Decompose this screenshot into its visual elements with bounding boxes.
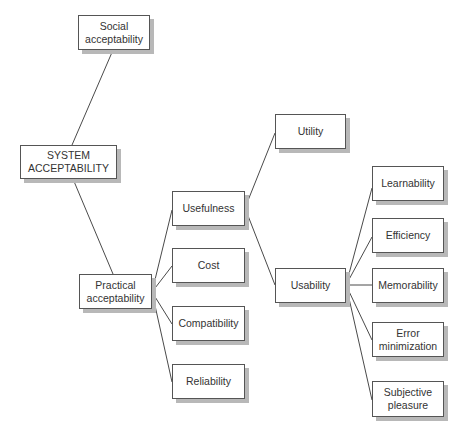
node-label: Compatibility bbox=[178, 317, 238, 330]
node-label-line: Error bbox=[379, 327, 437, 340]
node-label: Learnability bbox=[381, 177, 435, 190]
node-label-line: Subjective bbox=[384, 386, 432, 399]
node-label: Usefulness bbox=[183, 202, 235, 215]
node-label: Utility bbox=[298, 125, 324, 138]
node-label: Reliability bbox=[186, 375, 231, 388]
edge-usability-subjective bbox=[346, 285, 372, 400]
node-label-line: acceptability bbox=[87, 292, 145, 305]
node-label-line: acceptability bbox=[85, 33, 143, 46]
node-label: Memorability bbox=[378, 279, 438, 292]
acceptability-tree-diagram: Social acceptability SYSTEM ACCEPTABILIT… bbox=[0, 0, 462, 433]
edge-system-social bbox=[72, 50, 113, 145]
node-subjective-pleasure: Subjective pleasure bbox=[372, 381, 444, 417]
node-reliability: Reliability bbox=[172, 364, 245, 399]
edge-usability-learnability bbox=[346, 188, 372, 285]
node-utility: Utility bbox=[275, 114, 346, 149]
node-system-acceptability: SYSTEM ACCEPTABILITY bbox=[20, 145, 117, 179]
node-error-minimization: Error minimization bbox=[372, 322, 444, 357]
node-label-line: minimization bbox=[379, 340, 437, 353]
node-label-line: ACCEPTABILITY bbox=[28, 162, 109, 175]
edge-usefulness-utility bbox=[245, 133, 275, 208]
edge-practical-reliability bbox=[152, 292, 172, 382]
node-label: Efficiency bbox=[386, 229, 431, 242]
edge-usefulness-usability bbox=[245, 208, 275, 285]
node-compatibility: Compatibility bbox=[172, 306, 245, 341]
node-label-line: pleasure bbox=[384, 399, 432, 412]
node-label: Usability bbox=[291, 279, 331, 292]
edge-system-practical bbox=[73, 179, 113, 274]
node-efficiency: Efficiency bbox=[372, 218, 444, 253]
node-practical-acceptability: Practical acceptability bbox=[79, 274, 152, 309]
edge-usability-efficiency bbox=[346, 237, 372, 285]
node-learnability: Learnability bbox=[372, 166, 444, 201]
node-memorability: Memorability bbox=[372, 268, 444, 303]
node-label: Cost bbox=[198, 259, 220, 272]
edge-usability-error bbox=[346, 285, 372, 340]
node-label-line: SYSTEM bbox=[28, 149, 109, 162]
edge-practical-compatibility bbox=[152, 292, 172, 324]
node-usability: Usability bbox=[275, 268, 346, 303]
node-cost: Cost bbox=[172, 248, 245, 283]
node-usefulness: Usefulness bbox=[172, 191, 245, 226]
node-label-line: Practical bbox=[87, 279, 145, 292]
node-social-acceptability: Social acceptability bbox=[78, 15, 150, 50]
node-label-line: Social bbox=[85, 20, 143, 33]
